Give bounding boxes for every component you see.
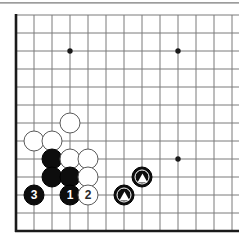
star-point-upper-right xyxy=(175,48,180,53)
move-stone-3[interactable]: 3 xyxy=(24,185,45,206)
star-point-lower-right xyxy=(175,156,180,161)
star-point-upper-left xyxy=(67,48,72,53)
top-divider-rule xyxy=(0,2,239,4)
move-number-label: 3 xyxy=(31,189,38,201)
marked-black-stone-triangle[interactable] xyxy=(114,185,135,206)
triangle-mark-icon xyxy=(137,174,147,183)
marked-black-stone-triangle[interactable] xyxy=(132,167,153,188)
go-diagram-root: 312 xyxy=(0,0,239,233)
triangle-mark-icon xyxy=(119,192,129,201)
move-stone-2[interactable]: 2 xyxy=(78,185,99,206)
go-board[interactable]: 312 xyxy=(0,8,239,233)
white-stone[interactable] xyxy=(60,113,81,134)
move-number-label: 1 xyxy=(67,189,74,201)
move-number-label: 2 xyxy=(85,189,92,201)
